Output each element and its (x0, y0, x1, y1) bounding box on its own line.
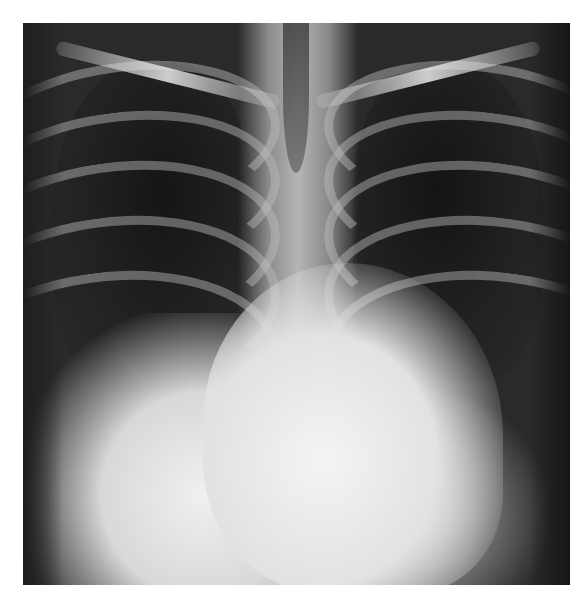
chest-wall-right (23, 23, 63, 585)
trachea (283, 23, 309, 173)
chest-xray-image (23, 23, 570, 585)
chest-wall-left (530, 23, 570, 585)
